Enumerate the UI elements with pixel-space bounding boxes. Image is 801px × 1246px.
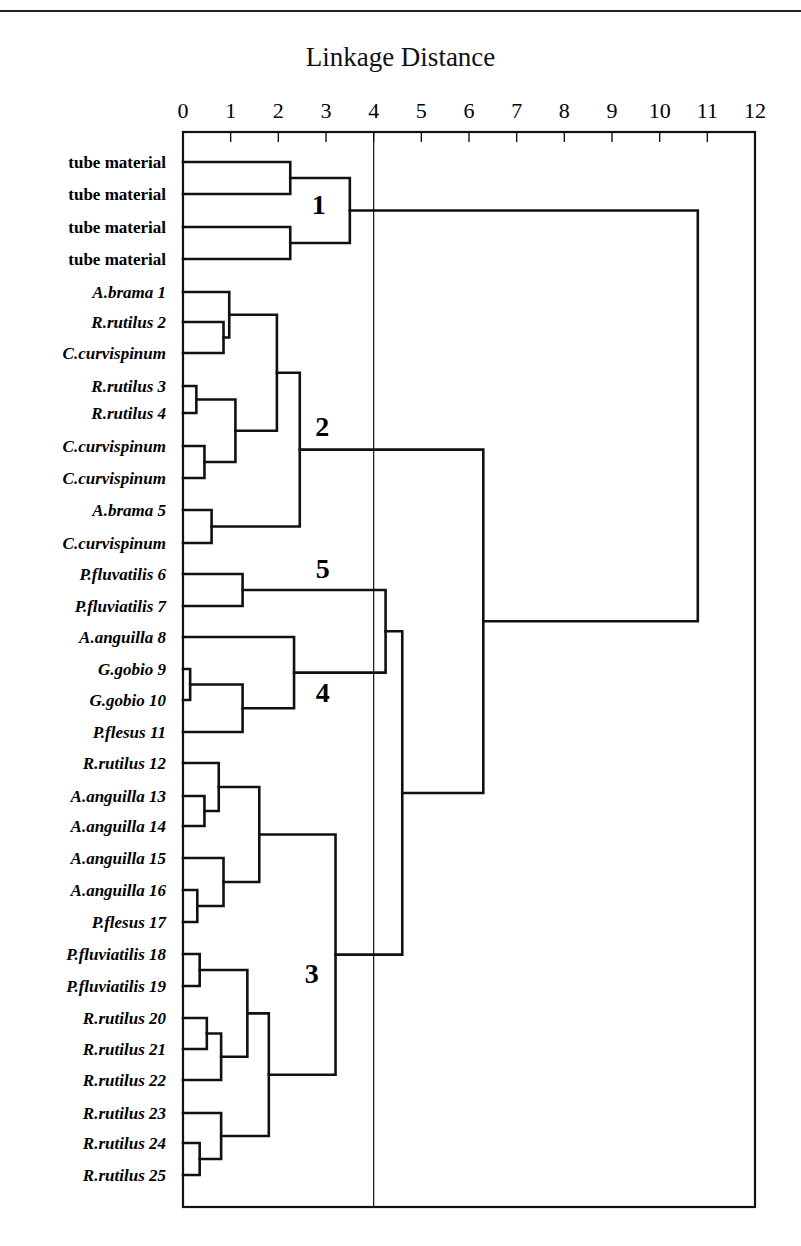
- branch-m2: [183, 227, 290, 259]
- branch-m32: [350, 211, 698, 622]
- leaf-label: P.flesus 17: [91, 913, 168, 932]
- leaf-label: C.curvispinum: [63, 469, 166, 488]
- leaf-label: A.anguilla 14: [70, 817, 166, 836]
- branch-m26: [183, 1143, 200, 1175]
- leaf-label: R.rutilus 23: [82, 1104, 167, 1123]
- leaf-label: tube material: [68, 153, 166, 172]
- x-tick-label: 7: [511, 98, 522, 123]
- leaf-label: P.fluviatilis 18: [65, 945, 166, 964]
- x-tick-label: 11: [697, 98, 718, 123]
- branch-m28: [221, 1013, 269, 1136]
- leaf-label: R.rutilus 25: [82, 1166, 167, 1185]
- x-tick-label: 1: [225, 98, 236, 123]
- leaf-label: R.rutilus 3: [90, 377, 166, 396]
- cluster-label-4: 4: [316, 677, 330, 708]
- branch-m27: [183, 1113, 221, 1159]
- leaf-label: R.rutilus 4: [90, 404, 166, 423]
- cluster-label-2: 2: [315, 411, 329, 442]
- leaf-label: A.brama 5: [91, 501, 166, 520]
- branch-m7: [183, 446, 204, 478]
- branch-m1: [183, 162, 290, 194]
- leaf-label: R.rutilus 12: [82, 754, 167, 773]
- x-tick-label: 6: [464, 98, 475, 123]
- dendrogram-branches: [183, 162, 698, 1175]
- cluster-label-5: 5: [316, 553, 330, 584]
- leaf-label: R.rutilus 24: [82, 1134, 166, 1153]
- branch-m14: [183, 685, 243, 733]
- leaf-label: A.anguilla 16: [70, 881, 167, 900]
- x-tick-label: 0: [178, 98, 189, 123]
- branch-m31: [300, 450, 484, 793]
- branch-m12: [183, 574, 243, 606]
- branch-m22: [183, 954, 200, 986]
- branch-m24: [183, 1034, 221, 1081]
- leaf-label: R.rutilus 2: [90, 313, 166, 332]
- x-tick-label: 9: [607, 98, 618, 123]
- leaf-label: R.rutilus 22: [82, 1071, 167, 1090]
- branch-m30: [336, 631, 403, 954]
- leaf-label: tube material: [68, 250, 166, 269]
- x-tick-label: 4: [368, 98, 379, 123]
- leaf-label: P.flesus 11: [92, 723, 166, 742]
- x-tick-label: 10: [649, 98, 671, 123]
- leaf-label: C.curvispinum: [63, 437, 166, 456]
- leaf-labels: tube materialtube materialtube materialt…: [63, 153, 168, 1185]
- branch-m15: [183, 637, 294, 708]
- leaf-label: G.gobio 10: [90, 691, 167, 710]
- leaf-label: R.rutilus 21: [82, 1040, 166, 1059]
- leaf-label: C.curvispinum: [63, 344, 166, 363]
- branch-m19: [183, 890, 197, 922]
- dendrogram-chart: 0123456789101112 tube materialtube mater…: [0, 0, 801, 1246]
- branch-m11: [212, 373, 300, 527]
- leaf-label: tube material: [68, 218, 166, 237]
- x-tick-label: 2: [273, 98, 284, 123]
- x-tick-label: 8: [559, 98, 570, 123]
- branch-m6: [183, 386, 196, 413]
- leaf-label: A.brama 1: [91, 283, 166, 302]
- x-tick-label: 5: [416, 98, 427, 123]
- branch-m16: [243, 590, 386, 673]
- branch-m29: [259, 835, 335, 1075]
- branch-m21: [219, 787, 260, 882]
- branch-m8: [196, 400, 235, 463]
- x-axis-ticks: 0123456789101112: [178, 98, 767, 142]
- x-tick-label: 3: [321, 98, 332, 123]
- leaf-label: A.anguilla 15: [70, 849, 167, 868]
- leaf-label: A.anguilla 13: [70, 787, 167, 806]
- leaf-label: P.fluvatilis 6: [78, 565, 166, 584]
- leaf-label: G.gobio 9: [98, 660, 167, 679]
- branch-m23: [183, 1018, 207, 1049]
- leaf-label: A.anguilla 8: [78, 628, 166, 647]
- leaf-label: P.fluviatilis 7: [74, 597, 168, 616]
- branch-m18: [183, 763, 219, 811]
- leaf-label: R.rutilus 20: [82, 1009, 167, 1028]
- cluster-label-3: 3: [305, 958, 319, 989]
- branch-m17: [183, 796, 204, 826]
- leaf-label: C.curvispinum: [63, 534, 166, 553]
- leaf-label: tube material: [68, 185, 166, 204]
- branch-m20: [183, 858, 224, 906]
- x-tick-label: 12: [744, 98, 766, 123]
- branch-m10: [183, 510, 212, 543]
- branch-m4: [183, 322, 224, 353]
- cluster-label-1: 1: [312, 189, 326, 220]
- leaf-label: P.fluviatilis 19: [65, 977, 166, 996]
